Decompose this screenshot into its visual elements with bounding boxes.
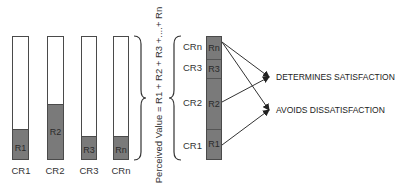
opening-brace-icon <box>169 36 181 160</box>
arrow-r2-satisfaction <box>222 77 269 102</box>
arrow-r1-dissatisfaction <box>222 110 269 145</box>
arrow-rn-dissatisfaction <box>222 42 269 110</box>
closing-brace-icon <box>134 36 146 160</box>
arrow-rn-satisfaction <box>222 42 269 77</box>
